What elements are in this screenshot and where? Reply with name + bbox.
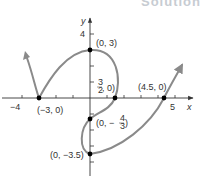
point-4.5-0 bbox=[162, 96, 167, 101]
tick-label-5: 5 bbox=[170, 102, 175, 112]
point-0-neg4-3 bbox=[88, 117, 93, 122]
point-0-3 bbox=[88, 48, 93, 53]
point-neg3-0 bbox=[37, 96, 42, 101]
label-3-2-0: 3 2 , 0) bbox=[97, 77, 115, 95]
intercept-points bbox=[37, 48, 167, 157]
svg-text:(0, −: (0, − bbox=[96, 118, 114, 128]
label-0-3: (0, 3) bbox=[96, 38, 117, 48]
y-axis-label: y bbox=[80, 16, 86, 26]
svg-text:): ) bbox=[125, 118, 128, 128]
label-4.5-0: (4.5, 0) bbox=[138, 82, 167, 92]
tick-label-neg4: −4 bbox=[10, 102, 20, 112]
label-0-neg4-3: (0, − 4 3 ) bbox=[96, 113, 128, 131]
point-0-neg3.5 bbox=[88, 152, 93, 157]
svg-text:, 0): , 0) bbox=[102, 83, 115, 93]
x-axis-label: x bbox=[186, 102, 192, 112]
label-neg3-0: (−3, 0) bbox=[37, 105, 63, 115]
label-0-neg3.5: (0, −3.5) bbox=[50, 150, 84, 160]
graph-figure: y x 4 −4 5 (0, 3) (−3, 0) (4.5, 0) (0, −… bbox=[0, 0, 205, 181]
tick-label-4: 4 bbox=[80, 29, 85, 39]
function-curve bbox=[27, 50, 182, 154]
point-1.5-0 bbox=[113, 96, 118, 101]
